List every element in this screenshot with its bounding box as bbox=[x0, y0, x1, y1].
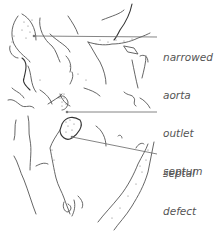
label-outlet-septum-line1: outlet bbox=[163, 127, 203, 140]
middle-structures bbox=[48, 56, 150, 108]
label-septal-defect-line1: septal bbox=[163, 167, 196, 180]
right-wall bbox=[98, 142, 154, 230]
leader-septal-defect bbox=[72, 137, 157, 154]
label-narrowed-aorta: narrowed aorta bbox=[163, 26, 213, 114]
left-wall-outline bbox=[8, 14, 70, 108]
leader-narrowed-aorta bbox=[34, 36, 157, 37]
lower-walls bbox=[14, 116, 122, 216]
label-septal-defect-line2: defect bbox=[163, 205, 196, 218]
label-septal-defect: septal defect bbox=[163, 142, 196, 230]
label-narrowed-aorta-line1: narrowed bbox=[163, 51, 213, 64]
stipple-texture bbox=[11, 19, 148, 218]
top-structures bbox=[68, 4, 150, 88]
septal-defect-region bbox=[60, 117, 106, 146]
label-narrowed-aorta-line2: aorta bbox=[163, 89, 213, 102]
